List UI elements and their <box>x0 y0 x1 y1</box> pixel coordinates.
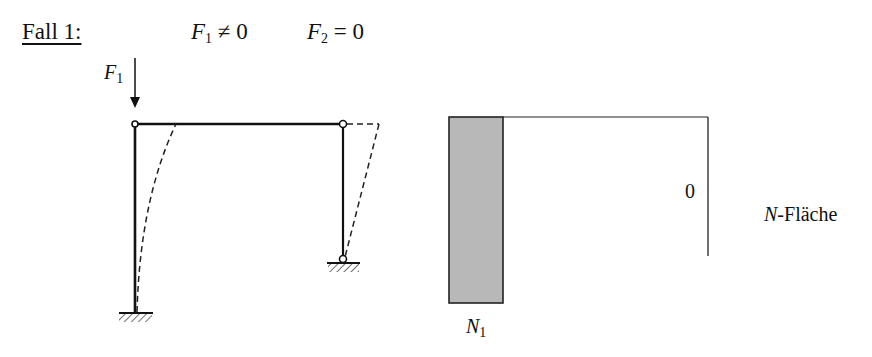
hinge-top-right <box>340 121 347 128</box>
pinned-support-right <box>327 256 360 273</box>
diagram-title: N-Fläche <box>764 204 837 224</box>
left-column-deflection <box>137 124 176 312</box>
right-column-deflection <box>345 124 379 257</box>
hinge-top-left <box>132 121 138 127</box>
right-column-value: 0 <box>685 181 695 201</box>
fixed-support-left <box>119 313 153 322</box>
load-arrow <box>130 58 140 108</box>
portal-frame <box>135 124 343 313</box>
hinge-bottom-right <box>340 256 347 263</box>
normal-force-diagram <box>449 117 708 303</box>
n1-column-area <box>449 117 503 303</box>
n1-label: N1 <box>466 316 486 340</box>
drawing-canvas <box>0 0 872 357</box>
